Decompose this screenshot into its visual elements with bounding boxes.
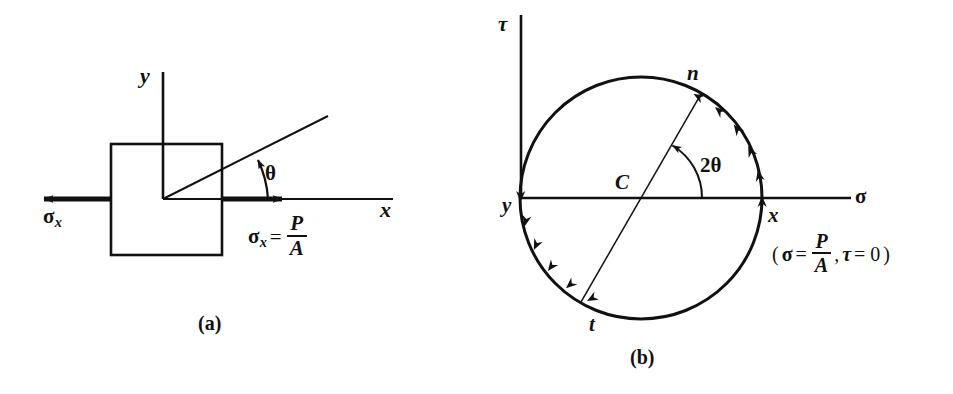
sigma-glyph: σ xyxy=(43,204,54,228)
panel-a-y-axis-label: y xyxy=(140,65,150,87)
sigma-glyph: σ xyxy=(782,244,793,264)
tau-equals-zero: = 0 xyxy=(854,244,880,264)
panel-b-sigma-axis-label: σ xyxy=(855,186,866,207)
circle-center-label: C xyxy=(615,172,629,193)
tau-glyph: τ xyxy=(842,244,851,264)
fraction-numerator: P xyxy=(812,231,831,251)
panel-a-theta-label: θ xyxy=(265,163,276,184)
panel-b-tau-axis-label: τ xyxy=(498,14,507,35)
comma-separator: , xyxy=(834,244,839,264)
figure-canvas xyxy=(0,0,953,394)
figure-root: y x θ σx σx = P A (a) τ σ C y x n t 2θ (… xyxy=(0,0,953,394)
sigma-glyph: σ xyxy=(248,224,259,248)
inclined-plane-line xyxy=(163,116,328,199)
panel-a-x-axis-label: x xyxy=(380,199,391,221)
p-over-a-fraction: P A xyxy=(812,231,831,276)
close-paren: ) xyxy=(883,244,890,264)
point-label-t: t xyxy=(589,314,595,335)
fraction-denominator: A xyxy=(287,238,307,259)
panel-a-caption: (a) xyxy=(198,313,221,333)
p-over-a-fraction: P A xyxy=(287,213,307,260)
fraction-denominator: A xyxy=(812,255,831,275)
panel-a-graphics xyxy=(44,72,393,255)
stress-state-note: ( σ = P A , τ = 0 ) xyxy=(772,232,890,277)
equals-sign: = xyxy=(270,227,282,248)
sigma-subscript-x: x xyxy=(55,214,62,230)
ccw-arrowheads-upper-right xyxy=(691,90,767,207)
open-paren: ( xyxy=(772,244,779,264)
point-label-y: y xyxy=(502,195,511,216)
two-theta-angle-arc xyxy=(673,146,703,199)
fraction-numerator: P xyxy=(287,213,307,234)
sigma-x-label-left: σx xyxy=(43,206,62,229)
point-label-x: x xyxy=(768,205,779,226)
point-label-n: n xyxy=(687,63,699,84)
equals-sign: = xyxy=(796,244,807,264)
panel-b-caption: (b) xyxy=(630,347,654,367)
sigma-subscript-x: x xyxy=(260,234,267,250)
sigma-x-equation: σx = P A xyxy=(248,214,309,261)
cw-arrowheads-lower-left xyxy=(516,191,599,305)
two-theta-label: 2θ xyxy=(700,155,721,176)
